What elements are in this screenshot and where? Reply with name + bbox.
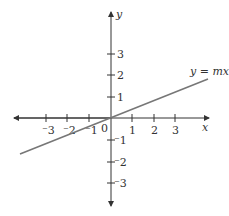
y-tick-label: 1 [117,91,124,104]
origin-label: 0 [101,122,108,135]
y-tick-label: ⁻3 [114,177,127,190]
y-tick-label: 3 [117,48,124,61]
y-tick-label: ⁻1 [114,134,127,147]
x-axis-label: x [202,121,209,134]
x-tick-label: ⁻3 [42,124,55,137]
y-tick-labels: 3 2 1 ⁻1 ⁻2 ⁻3 [114,48,127,190]
y-tick-label: ⁻2 [114,156,127,169]
y-axis-label: y [115,8,123,21]
y-tick-label: 2 [117,69,124,82]
coordinate-plane: ⁻3 ⁻2 ⁻1 1 2 3 0 3 2 1 ⁻1 ⁻2 ⁻3 y x y = … [0,0,229,216]
x-tick-label: 2 [151,124,158,137]
x-tick-label: 1 [129,124,136,137]
x-tick-label: 3 [172,124,179,137]
equation-label: y = mx [189,65,229,78]
